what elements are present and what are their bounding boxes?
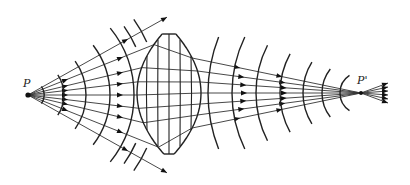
- arrowhead-icon: [240, 99, 246, 104]
- arrowhead-icon: [62, 93, 68, 98]
- arrowhead-icon: [241, 91, 247, 96]
- arrowhead-icon: [117, 93, 123, 98]
- arrowhead-icon: [280, 85, 286, 90]
- wavefront: [124, 26, 136, 46]
- arrowhead-icon: [280, 96, 286, 101]
- image-point: [359, 91, 363, 95]
- refracted-rays: [192, 58, 361, 128]
- ray: [192, 93, 361, 128]
- wavefront: [134, 148, 147, 171]
- arrowhead-icon: [117, 129, 123, 133]
- arrowhead-icon: [161, 168, 167, 173]
- lens-wavefront-line: [191, 56, 192, 130]
- ray: [154, 45, 192, 58]
- arrowhead-icon: [382, 95, 388, 100]
- wavefront: [124, 143, 136, 163]
- lens-wavefront-line: [146, 56, 147, 130]
- ray: [142, 68, 198, 71]
- arrowhead-icon: [161, 17, 167, 22]
- arrowhead-icon: [62, 89, 68, 94]
- arrowhead-icon: [117, 114, 123, 119]
- source-point: [25, 92, 30, 97]
- arrowhead-icon: [240, 82, 246, 87]
- arrowhead-icon: [281, 91, 287, 96]
- arrowhead-icon: [117, 103, 123, 108]
- converging-lens: [137, 34, 201, 154]
- arrowhead-icon: [117, 82, 123, 87]
- arrowhead-icon: [122, 146, 128, 151]
- ray: [144, 115, 198, 123]
- image-label: P': [356, 74, 367, 87]
- arrowhead-icon: [62, 97, 68, 102]
- wavefront: [134, 19, 147, 42]
- arrowhead-icon: [238, 107, 244, 112]
- arrowhead-icon: [122, 39, 128, 44]
- ray: [192, 58, 361, 93]
- source-label: P: [22, 77, 31, 90]
- arrowhead-icon: [117, 71, 123, 76]
- lens-diagram: P P': [0, 0, 410, 185]
- arrowhead-icon: [117, 57, 123, 61]
- arrowhead-icon: [238, 74, 244, 79]
- incident-rays: [28, 17, 201, 173]
